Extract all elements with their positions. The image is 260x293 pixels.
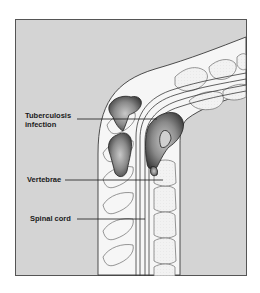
vertebrae-lower xyxy=(154,160,176,276)
vertebrae-label: Vertebrae xyxy=(27,176,61,185)
tuberculosis-label: Tuberculosis infection xyxy=(25,112,71,129)
spine-illustration xyxy=(15,19,247,276)
spinal-cord-label: Spinal cord xyxy=(30,215,71,224)
diagram-frame xyxy=(15,19,247,276)
tuberculosis-label-line2: infection xyxy=(25,121,71,130)
